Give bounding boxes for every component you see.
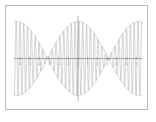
x-tick-label: 3 [106,62,108,66]
figure-root: -6-5-4-3-2-10123456 [0,0,156,122]
x-tick-label: 5 [126,62,128,66]
x-tick-label: -2 [57,62,60,66]
x-tick-label: 1 [87,62,89,66]
plot-canvas: -6-5-4-3-2-10123456 [0,0,156,122]
x-tick-label: 2 [96,62,98,66]
x-tick-label: -3 [47,62,50,66]
x-tick-label: 6 [135,62,137,66]
x-tick-label: -6 [18,62,21,66]
x-tick-label: 4 [116,62,118,66]
x-tick-label: 0 [77,62,79,66]
x-tick-label: -1 [67,62,70,66]
x-tick-label: -5 [28,62,31,66]
x-tick-label: -4 [38,62,41,66]
